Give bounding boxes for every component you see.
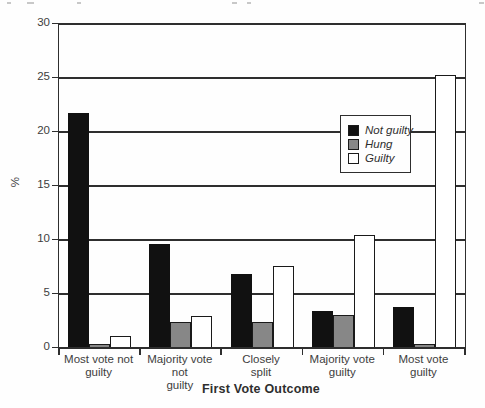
bar-hung: [333, 315, 354, 347]
bar-hung: [89, 344, 110, 347]
bar-group-5: [384, 23, 465, 347]
scan-speck: [27, 2, 34, 4]
y-tick-label-30: 30: [24, 16, 50, 28]
bar-not-guilty: [312, 311, 333, 347]
bar-group-4: [303, 23, 384, 347]
bar-group-3: [221, 23, 302, 347]
bar-not-guilty: [68, 113, 89, 347]
y-tick-mark-25: [52, 77, 58, 79]
y-axis-label: %: [9, 171, 21, 193]
bar-not-guilty: [149, 244, 170, 347]
legend-item-not-guilty: Not guilty: [348, 124, 406, 136]
y-tick-mark-0: [52, 347, 58, 349]
bar-guilty: [273, 266, 294, 347]
x-axis-title: First Vote Outcome: [58, 382, 464, 396]
bar-guilty: [191, 316, 212, 347]
legend-item-hung: Hung: [348, 138, 406, 150]
scan-speck: [77, 2, 81, 4]
y-tick-label-5: 5: [24, 286, 50, 298]
legend-label: Not guilty: [365, 124, 413, 136]
y-tick-mark-15: [52, 185, 58, 187]
bar-hung: [252, 322, 273, 347]
y-tick-mark-30: [52, 23, 58, 25]
scan-speck: [7, 2, 11, 4]
y-tick-mark-20: [52, 131, 58, 133]
bar-group-1: [59, 23, 140, 347]
bar-hung: [414, 344, 435, 347]
legend-swatch-icon: [348, 153, 359, 164]
legend-label: Hung: [365, 138, 393, 150]
bar-hung: [170, 322, 191, 347]
bar-guilty: [435, 75, 456, 347]
scan-speck: [247, 2, 251, 4]
bar-group-2: [140, 23, 221, 347]
bar-guilty: [354, 235, 375, 347]
legend-label: Guilty: [365, 152, 394, 164]
legend-item-guilty: Guilty: [348, 152, 406, 164]
y-tick-label-15: 15: [24, 178, 50, 190]
bar-groups: [59, 23, 465, 347]
y-tick-label-25: 25: [24, 70, 50, 82]
y-tick-mark-5: [52, 293, 58, 295]
bar-guilty: [110, 336, 131, 347]
x-tick-mark-5: [464, 349, 466, 355]
legend: Not guiltyHungGuilty: [340, 115, 411, 173]
y-tick-label-10: 10: [24, 232, 50, 244]
scan-speck: [232, 2, 237, 4]
bar-chart-figure: % 051015202530 Most vote not guiltyMajor…: [0, 0, 485, 408]
legend-swatch-icon: [348, 139, 359, 150]
y-tick-mark-10: [52, 239, 58, 241]
bar-not-guilty: [231, 274, 252, 347]
y-tick-label-20: 20: [24, 124, 50, 136]
legend-swatch-icon: [348, 125, 359, 136]
scan-speck: [479, 2, 484, 4]
y-tick-label-0: 0: [24, 340, 50, 352]
bar-not-guilty: [393, 307, 414, 347]
plot-area: [58, 23, 466, 349]
